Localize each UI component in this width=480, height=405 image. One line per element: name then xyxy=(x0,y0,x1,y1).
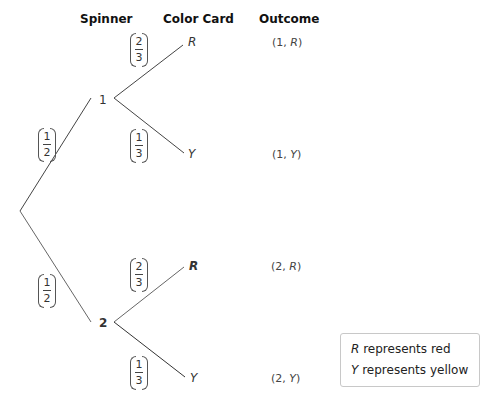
outcome-spinner: 2 xyxy=(275,372,282,385)
branch-1-to-y xyxy=(114,98,184,153)
outcome-color: R xyxy=(290,36,298,49)
legend-box: R represents red Y represents yellow xyxy=(340,333,480,387)
prob-root-to-2: 1 2 xyxy=(38,274,56,308)
outcome-color: Y xyxy=(289,372,296,385)
outcome-spinner: 1 xyxy=(276,148,283,161)
outcome-color: R xyxy=(289,260,297,273)
branch-1-to-r xyxy=(114,45,183,98)
right-paren xyxy=(50,128,56,162)
leaf-2-r: R xyxy=(189,259,198,273)
leaf-2-y: Y xyxy=(190,371,197,385)
leaf-1-y: Y xyxy=(188,147,195,161)
right-paren xyxy=(142,129,148,163)
legend-text-red: represents red xyxy=(359,342,450,356)
outcome-spinner: 1 xyxy=(276,36,283,49)
outcome-1-r: (1, R) xyxy=(272,36,302,49)
branch-2-to-y xyxy=(114,322,185,377)
outcome-2-y: (2, Y) xyxy=(271,372,300,385)
prob-1-to-y: 1 3 xyxy=(130,129,148,163)
right-paren xyxy=(50,274,56,308)
leaf-1-r: R xyxy=(188,35,196,49)
outcome-spinner: 2 xyxy=(275,260,282,273)
right-paren xyxy=(142,33,148,67)
legend-line-yellow: Y represents yellow xyxy=(351,360,479,381)
node-spinner-2: 2 xyxy=(99,316,107,330)
outcome-1-y: (1, Y) xyxy=(272,148,301,161)
prob-root-to-1: 1 2 xyxy=(38,128,56,162)
prob-1-to-r: 2 3 xyxy=(130,33,148,67)
prob-2-to-y: 1 3 xyxy=(130,356,148,390)
legend-line-red: R represents red xyxy=(351,339,479,360)
branch-2-to-r xyxy=(114,267,184,322)
node-spinner-1: 1 xyxy=(99,93,107,107)
outcome-2-r: (2, R) xyxy=(271,260,301,273)
legend-text-yellow: represents yellow xyxy=(358,363,468,377)
prob-2-to-r: 2 3 xyxy=(130,258,148,292)
outcome-color: Y xyxy=(290,148,297,161)
right-paren xyxy=(142,356,148,390)
right-paren xyxy=(142,258,148,292)
